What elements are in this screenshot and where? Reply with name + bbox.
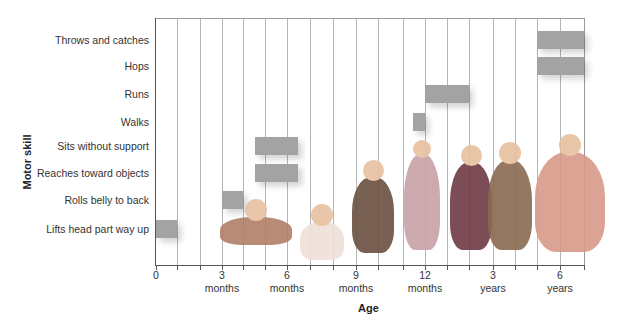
x-axis-line	[155, 265, 585, 266]
child-figure	[352, 177, 394, 253]
grid-line	[447, 19, 448, 266]
grid-line	[177, 19, 178, 266]
x-tick-label: 3years	[468, 269, 518, 295]
y-tick-label: Walks	[121, 116, 149, 128]
y-tick-label: Throws and catches	[55, 34, 149, 46]
child-figure	[488, 160, 532, 250]
child-figure	[404, 154, 440, 250]
skill-bar	[537, 57, 584, 75]
child-figure	[535, 152, 605, 252]
skill-bar	[425, 85, 469, 103]
skill-bar	[537, 31, 584, 49]
y-tick-label: Sits without support	[57, 140, 149, 152]
skill-bar	[255, 164, 298, 182]
skill-bar	[156, 220, 177, 238]
x-tick-label: 3months	[197, 269, 247, 295]
y-axis-title: Motor skill	[21, 134, 33, 189]
y-tick-label: Lifts head part way up	[46, 223, 149, 235]
x-tick-label: 9months	[331, 269, 381, 295]
y-tick-label: Hops	[124, 60, 149, 72]
x-axis-title: Age	[358, 302, 379, 314]
skill-bar	[255, 137, 298, 155]
y-tick-label: Rolls belly to back	[64, 194, 149, 206]
child-figure	[220, 217, 292, 245]
y-tick-label: Reaches toward objects	[37, 167, 149, 179]
grid-line	[200, 19, 201, 266]
skill-bar	[413, 113, 425, 131]
child-figure	[300, 222, 344, 260]
y-tick-label: Runs	[124, 88, 149, 100]
child-figure	[450, 162, 492, 250]
skill-bar	[222, 191, 243, 209]
x-tick-label: 6months	[262, 269, 312, 295]
x-tick-label: 0	[131, 269, 181, 282]
x-tick-label: 12months	[400, 269, 450, 295]
x-tick-label: 6years	[535, 269, 585, 295]
